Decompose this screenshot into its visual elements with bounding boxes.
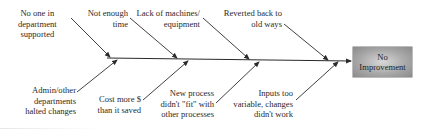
bottom-bone-1	[77, 60, 117, 92]
top-bone-4	[284, 24, 328, 60]
cause-label-process-fit: New process didn't "fit" with other proc…	[150, 88, 214, 120]
effect-box: No Improvement	[353, 47, 412, 77]
cause-label-admin-halted: Admin/other departments halted changes	[12, 85, 76, 117]
cause-label-not-enough-time: Not enough time	[84, 8, 128, 29]
effect-label: No Improvement	[359, 52, 405, 73]
spine-line	[107, 58, 351, 61]
cause-label-cost-more: Cost more $ than it saved	[91, 94, 141, 115]
cause-label-no-support: No one in department supported	[18, 8, 57, 40]
cause-label-reverted: Reverted back to old ways	[220, 8, 282, 29]
footer-divider	[0, 128, 100, 129]
fishbone-diagram: No one in department supported Not enoug…	[0, 0, 441, 130]
cause-label-inputs-variable: Inputs too variable, changes didn't work	[225, 88, 293, 120]
cause-label-lack-of-machines: Lack of machines/ equipment	[130, 8, 200, 29]
bottom-bone-4	[296, 62, 338, 100]
